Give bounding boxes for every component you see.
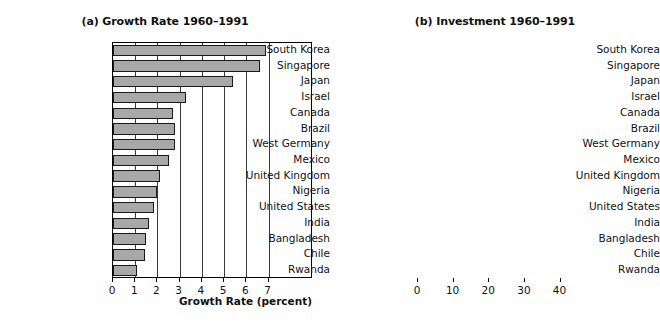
bar-slot	[113, 74, 311, 89]
bar[interactable]	[113, 139, 175, 150]
tick-mark	[268, 278, 269, 282]
category-label: Canada	[290, 106, 330, 118]
tick-mark	[488, 278, 489, 282]
tick-mark	[179, 278, 180, 282]
category-label: United States	[259, 200, 330, 212]
bar[interactable]	[113, 92, 186, 103]
bar-slot	[113, 248, 311, 263]
tick-mark	[524, 278, 525, 282]
category-label: Bangladesh	[598, 232, 660, 244]
category-label: Bangladesh	[268, 232, 330, 244]
bar[interactable]	[113, 60, 260, 71]
category-label: Nigeria	[292, 184, 330, 196]
category-label: West Germany	[253, 137, 330, 149]
category-label: Rwanda	[618, 263, 660, 275]
category-label: Mexico	[293, 153, 330, 165]
category-label: South Korea	[596, 43, 660, 55]
bar-slot	[113, 106, 311, 121]
category-label: Nigeria	[622, 184, 660, 196]
category-label: United Kingdom	[576, 169, 660, 181]
bar[interactable]	[113, 265, 137, 276]
tick-label: 0	[414, 284, 421, 296]
bar[interactable]	[113, 186, 157, 197]
bar[interactable]	[113, 76, 233, 87]
category-label: Japan	[301, 74, 330, 86]
bar-slot	[113, 153, 311, 168]
category-label: United States	[589, 200, 660, 212]
bar[interactable]	[113, 170, 160, 181]
bar[interactable]	[113, 233, 146, 244]
category-label: Chile	[304, 247, 330, 259]
bar-slot	[113, 216, 311, 231]
tick-mark	[201, 278, 202, 282]
bar[interactable]	[113, 202, 154, 213]
tick-mark	[156, 278, 157, 282]
category-label: West Germany	[583, 137, 660, 149]
tick-label: 20	[482, 284, 495, 296]
category-label: India	[634, 216, 660, 228]
panel-a-xaxis-title: Growth Rate (percent)	[112, 295, 312, 307]
category-label: Brazil	[301, 122, 330, 134]
tick-mark	[417, 278, 418, 282]
tick-mark	[112, 278, 113, 282]
tick-mark	[134, 278, 135, 282]
panel-growth-rate: (a) Growth Rate 1960–1991 South KoreaSin…	[0, 0, 330, 332]
tick-mark	[560, 278, 561, 282]
bar[interactable]	[113, 108, 173, 119]
bar[interactable]	[113, 155, 169, 166]
tick-mark	[223, 278, 224, 282]
bar[interactable]	[113, 218, 149, 229]
tick-label: 40	[553, 284, 566, 296]
category-label: Chile	[634, 247, 660, 259]
figure-two-bar-charts: (a) Growth Rate 1960–1991 South KoreaSin…	[0, 0, 660, 332]
category-label: Rwanda	[288, 263, 330, 275]
panel-investment: (b) Investment 1960–1991 South KoreaSing…	[330, 0, 660, 332]
category-label: Mexico	[623, 153, 660, 165]
category-label: United Kingdom	[246, 169, 330, 181]
category-label: India	[304, 216, 330, 228]
bar-slot	[113, 185, 311, 200]
bar[interactable]	[113, 249, 145, 260]
category-label: Singapore	[607, 59, 660, 71]
tick-mark	[453, 278, 454, 282]
panel-b-title: (b) Investment 1960–1991	[330, 15, 660, 28]
bar[interactable]	[113, 123, 175, 134]
category-label: South Korea	[266, 43, 330, 55]
category-label: Israel	[631, 90, 660, 102]
tick-label: 30	[517, 284, 530, 296]
tick-mark	[245, 278, 246, 282]
panel-a-title: (a) Growth Rate 1960–1991	[0, 15, 330, 28]
bar-slot	[113, 90, 311, 105]
bar[interactable]	[113, 45, 266, 56]
category-label: Israel	[301, 90, 330, 102]
category-label: Japan	[631, 74, 660, 86]
bar-slot	[113, 263, 311, 278]
tick-label: 10	[446, 284, 459, 296]
category-label: Canada	[620, 106, 660, 118]
bar-slot	[113, 122, 311, 137]
category-label: Brazil	[631, 122, 660, 134]
category-label: Singapore	[277, 59, 330, 71]
